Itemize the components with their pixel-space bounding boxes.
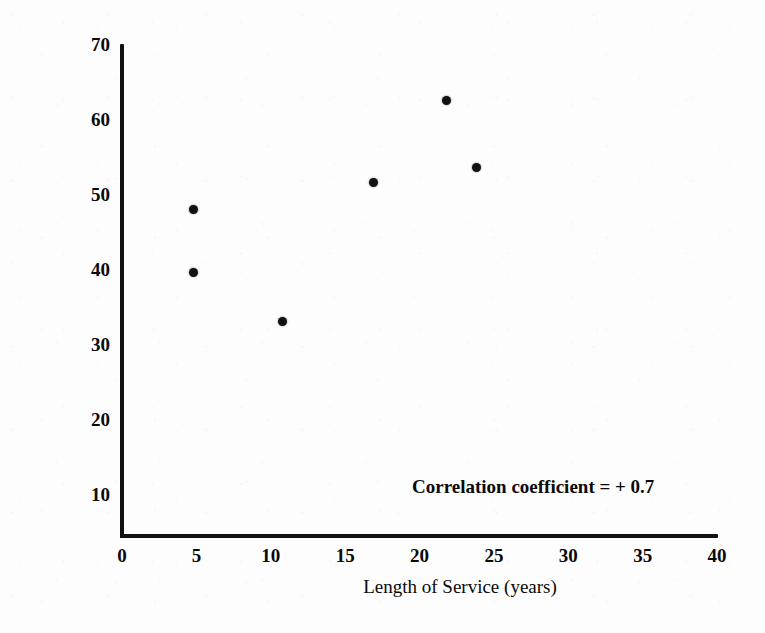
scatter-plot: 70605040302010 0510152025303540 Age (Yea… <box>0 0 765 633</box>
y-tick-label: 60 <box>66 110 110 129</box>
data-point <box>189 205 198 214</box>
correlation-coefficient-annotation: Correlation coefficient = + 0.7 <box>412 476 654 498</box>
x-tick-label: 10 <box>249 546 293 565</box>
y-tick-label: 40 <box>66 260 110 279</box>
data-point <box>369 178 378 187</box>
x-tick-label: 35 <box>621 546 665 565</box>
y-tick-label: 20 <box>66 410 110 429</box>
x-axis-line <box>120 534 718 538</box>
data-point <box>472 163 481 172</box>
y-tick-label: 50 <box>66 185 110 204</box>
data-point <box>278 317 287 326</box>
x-tick-label: 20 <box>398 546 442 565</box>
y-tick-label: 70 <box>66 35 110 54</box>
data-point <box>189 268 198 277</box>
y-tick-label: 10 <box>66 485 110 504</box>
data-point <box>442 96 451 105</box>
x-tick-label: 40 <box>695 546 739 565</box>
x-tick-label: 30 <box>546 546 590 565</box>
x-tick-label: 15 <box>323 546 367 565</box>
x-axis-title: Length of Service (years) <box>240 576 680 598</box>
chart-page: 70605040302010 0510152025303540 Age (Yea… <box>0 0 765 633</box>
x-tick-label: 25 <box>472 546 516 565</box>
y-axis-line <box>120 44 124 538</box>
x-tick-label: 0 <box>100 546 144 565</box>
x-tick-label: 5 <box>174 546 218 565</box>
y-tick-label: 30 <box>66 335 110 354</box>
